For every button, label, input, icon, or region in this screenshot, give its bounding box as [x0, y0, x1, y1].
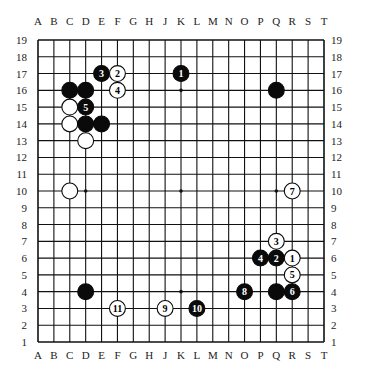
column-label: O — [241, 15, 249, 27]
white-stone: 2 — [110, 66, 126, 82]
white-stone — [62, 183, 78, 199]
black-stone — [94, 116, 110, 132]
move-number: 3 — [274, 236, 279, 247]
move-number: 5 — [290, 269, 295, 280]
column-label: F — [114, 349, 120, 361]
row-label: 12 — [16, 151, 27, 163]
black-stone: 8 — [237, 284, 253, 300]
column-label: G — [129, 349, 137, 361]
black-stone: 1 — [173, 66, 189, 82]
row-label: 10 — [331, 185, 343, 197]
row-label: 3 — [331, 302, 337, 314]
column-label: A — [34, 15, 42, 27]
row-label: 17 — [16, 68, 28, 80]
row-label: 8 — [331, 219, 337, 231]
column-label: Q — [272, 15, 280, 27]
row-label: 19 — [16, 34, 28, 46]
row-label: 13 — [16, 135, 28, 147]
star-point — [179, 89, 183, 93]
column-label: R — [289, 15, 297, 27]
white-stone: 4 — [110, 82, 126, 98]
white-stone: 11 — [110, 301, 126, 317]
move-number: 4 — [258, 253, 263, 264]
row-label: 14 — [16, 118, 28, 130]
column-labels-bottom: ABCDEFGHJKLMNOPQRST — [34, 349, 328, 361]
row-label: 1 — [22, 336, 28, 348]
row-label: 9 — [22, 202, 28, 214]
row-label: 4 — [22, 286, 28, 298]
black-stone: 6 — [284, 284, 300, 300]
black-stone: 3 — [94, 66, 110, 82]
row-label: 2 — [331, 319, 337, 331]
column-label: Q — [272, 349, 280, 361]
row-label: 5 — [331, 269, 337, 281]
column-label: T — [321, 15, 328, 27]
column-label: R — [289, 349, 297, 361]
column-label: D — [82, 15, 90, 27]
column-label: P — [257, 349, 263, 361]
move-number: 4 — [115, 85, 120, 96]
white-stone: 1 — [284, 250, 300, 266]
column-label: C — [66, 349, 73, 361]
white-stone: 7 — [284, 183, 300, 199]
move-number: 6 — [290, 286, 295, 297]
black-stone: 4 — [253, 250, 269, 266]
black-stone: 5 — [78, 99, 94, 115]
black-stone — [78, 284, 94, 300]
column-label: L — [194, 349, 201, 361]
column-label: K — [177, 349, 185, 361]
row-label: 8 — [22, 219, 28, 231]
row-label: 6 — [22, 252, 28, 264]
black-stone — [78, 82, 94, 98]
row-label: 9 — [331, 202, 337, 214]
row-label: 11 — [16, 168, 27, 180]
column-label: F — [114, 15, 120, 27]
row-label: 7 — [22, 235, 28, 247]
column-label: A — [34, 349, 42, 361]
star-point — [84, 189, 88, 193]
column-label: P — [257, 15, 263, 27]
black-stone — [268, 284, 284, 300]
column-label: N — [225, 15, 233, 27]
white-stone — [62, 116, 78, 132]
column-label: S — [305, 349, 311, 361]
row-label: 3 — [22, 302, 28, 314]
black-stone — [62, 82, 78, 98]
row-label: 2 — [22, 319, 28, 331]
row-label: 4 — [331, 286, 337, 298]
row-label: 17 — [331, 68, 343, 80]
move-number: 5 — [83, 102, 88, 113]
white-stone: 5 — [284, 267, 300, 283]
move-number: 1 — [179, 68, 184, 79]
row-label: 16 — [16, 84, 28, 96]
black-stone: 10 — [189, 301, 205, 317]
column-label: H — [145, 349, 153, 361]
column-label: G — [129, 15, 137, 27]
move-number: 9 — [163, 303, 168, 314]
column-label: J — [163, 349, 168, 361]
column-label: E — [98, 349, 105, 361]
row-label: 6 — [331, 252, 337, 264]
row-label: 19 — [331, 34, 343, 46]
row-label: 18 — [16, 51, 28, 63]
column-label: D — [82, 349, 90, 361]
star-point — [179, 290, 183, 294]
column-label: T — [321, 349, 328, 361]
black-stone — [268, 82, 284, 98]
column-labels-top: ABCDEFGHJKLMNOPQRST — [34, 15, 328, 27]
column-label: O — [241, 349, 249, 361]
move-number: 10 — [192, 303, 202, 314]
column-label: C — [66, 15, 73, 27]
move-number: 7 — [290, 186, 295, 197]
white-stone — [62, 99, 78, 115]
white-stone: 9 — [157, 301, 173, 317]
row-label: 7 — [331, 235, 337, 247]
row-label: 15 — [331, 101, 343, 113]
row-label: 18 — [331, 51, 343, 63]
row-labels-left: 19181716151413121110987654321 — [16, 34, 28, 348]
row-labels-right: 19181716151413121110987654321 — [331, 34, 343, 348]
column-label: B — [50, 349, 57, 361]
move-number: 3 — [99, 68, 104, 79]
column-label: S — [305, 15, 311, 27]
row-label: 12 — [331, 151, 342, 163]
